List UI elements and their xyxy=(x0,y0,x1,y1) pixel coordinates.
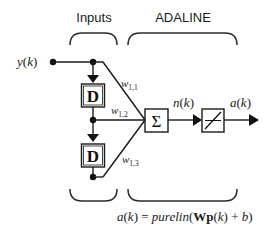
net-input-arrowhead xyxy=(193,114,202,126)
adaline-tapped-delay-diagram: Inputs ADALINE y(k) D D w1,1 w1,2 w1,3 Σ… xyxy=(0,0,268,236)
adaline-top-bracket xyxy=(128,33,237,45)
net-input-label: n(k) xyxy=(173,95,194,110)
delay-block-2-label: D xyxy=(87,147,99,166)
input-label: y(k) xyxy=(15,54,37,69)
adaline-section-label: ADALINE xyxy=(155,10,211,25)
inputs-top-bracket xyxy=(70,33,117,45)
summation-icon: Σ xyxy=(152,112,162,131)
inputs-section-label: Inputs xyxy=(76,10,112,25)
weight-path-3 xyxy=(103,120,145,177)
adaline-equation: a(k) = purelin(Wp(k) + b) xyxy=(117,209,253,224)
output-arrowhead xyxy=(249,114,259,126)
adaline-bottom-bracket xyxy=(128,189,237,201)
weight-label-1-2: w1,2 xyxy=(111,104,128,119)
delay-block-1-label: D xyxy=(87,87,99,106)
delay-2-arrowhead xyxy=(87,134,99,142)
output-label: a(k) xyxy=(230,95,251,110)
weight-label-1-3: w1,3 xyxy=(122,153,139,168)
inputs-bottom-bracket xyxy=(70,189,117,201)
delay-1-arrowhead xyxy=(87,75,99,83)
